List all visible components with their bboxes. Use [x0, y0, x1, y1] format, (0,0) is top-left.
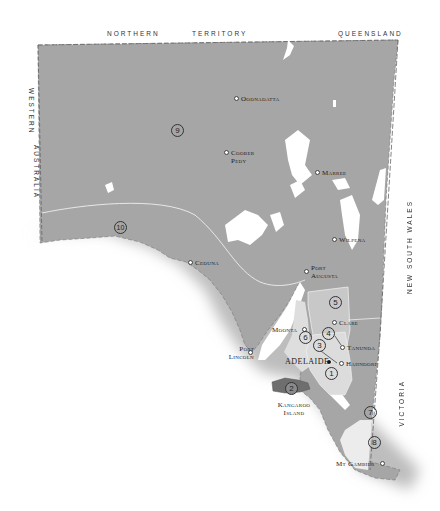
region-marker-4: 4	[322, 327, 335, 340]
town-marker	[332, 237, 337, 242]
town-label-tanunda: Tanunda	[347, 344, 375, 352]
town-marker	[315, 170, 320, 175]
island-label: Kangaroo Island	[272, 401, 316, 417]
label-australia: AUSTRALIA	[33, 145, 40, 199]
town-label-coober-pedy: Coober Pedy	[231, 149, 265, 165]
town-label-marree: Marree	[322, 169, 346, 177]
region-marker-6: 6	[299, 331, 312, 344]
town-label-moonta: Moonta	[272, 326, 297, 334]
town-label-clare: Clare	[339, 319, 358, 327]
region-marker-2: 2	[285, 382, 298, 395]
label-nsw: NEW SOUTH WALES	[406, 200, 413, 294]
town-label-port-lincoln: Port Lincoln	[228, 345, 254, 361]
region-marker-5: 5	[329, 296, 342, 309]
town-marker	[234, 96, 239, 101]
region-marker-7: 7	[364, 406, 377, 419]
label-queensland: QUEENSLAND	[338, 30, 403, 37]
south-australia-map	[0, 0, 440, 511]
town-label-oodnadatta: Oodnadatta	[241, 95, 280, 103]
town-label-ceduna: Ceduna	[195, 259, 219, 267]
label-western: WESTERN	[28, 88, 35, 135]
town-label-port-augusta: Port Augusta	[311, 264, 341, 280]
region-marker-3: 3	[313, 339, 326, 352]
town-marker	[340, 345, 345, 350]
region-marker-9: 9	[171, 124, 184, 137]
town-marker	[332, 320, 337, 325]
label-northern: NORTHERN	[107, 30, 160, 37]
town-marker	[224, 150, 229, 155]
town-marker	[339, 361, 344, 366]
town-label-wilpena: Wilpena	[339, 236, 365, 244]
town-label-mt-gambier: Mt Gambier	[336, 460, 375, 468]
region-marker-10: 10	[114, 221, 127, 234]
region-marker-1: 1	[325, 367, 338, 380]
label-victoria: VICTORIA	[398, 380, 405, 427]
capital-label-adelaide: ADELAIDE	[285, 358, 329, 366]
label-territory: TERRITORY	[192, 30, 247, 37]
region-marker-8: 8	[368, 436, 381, 449]
town-marker	[380, 461, 385, 466]
town-label-hahndorf: Hahndorf	[346, 360, 378, 368]
town-marker	[188, 260, 193, 265]
land-mass	[38, 40, 400, 480]
town-marker	[304, 269, 309, 274]
